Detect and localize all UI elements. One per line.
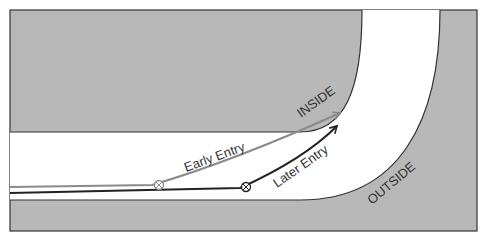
early-turn-in-marker-icon <box>155 181 164 190</box>
racing-line-diagram: INSIDE Early Entry Later Entry OUTSIDE <box>0 0 487 243</box>
later-turn-in-marker-icon <box>242 183 251 192</box>
